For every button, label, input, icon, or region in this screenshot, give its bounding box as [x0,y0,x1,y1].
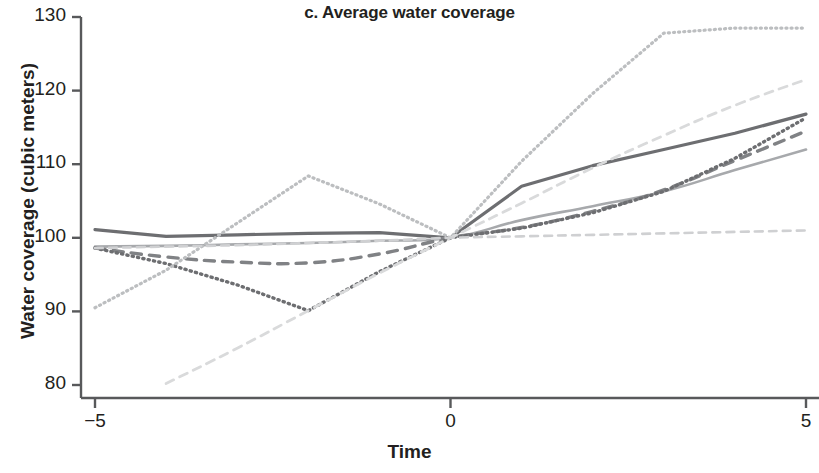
data-series-group [95,28,806,383]
plot-area [0,0,819,473]
tick-marks [72,17,806,408]
series-dotted-light-gray-peaked [95,28,806,308]
series-dotted-dark-gray [95,118,806,311]
series-dashed-dark-gray [95,131,806,264]
axis-lines [81,17,819,398]
chart-container: c. Average water coverage Water coverage… [0,0,819,473]
